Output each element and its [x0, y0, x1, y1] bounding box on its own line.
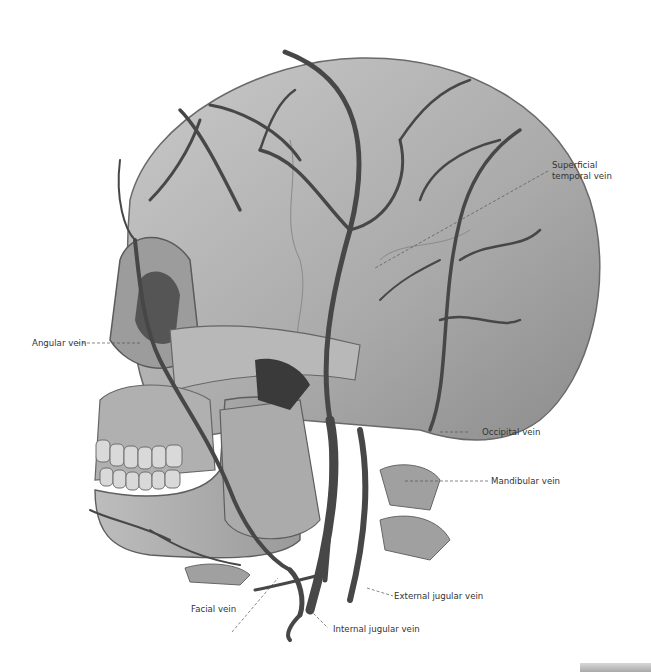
corner-scroll-strip	[580, 663, 651, 672]
skull-vein-illustration	[0, 0, 651, 672]
label-angular-vein: Angular vein	[32, 338, 86, 349]
label-superficial-temporal-vein: Superficial temporal vein	[552, 160, 612, 182]
label-facial-vein: Facial vein	[191, 604, 236, 615]
label-internal-jugular-vein: Internal jugular vein	[333, 624, 420, 635]
label-external-jugular-vein: External jugular vein	[394, 591, 483, 602]
label-mandibular-vein: Mandibular vein	[491, 476, 560, 487]
label-occipital-vein: Occipital vein	[482, 427, 540, 438]
